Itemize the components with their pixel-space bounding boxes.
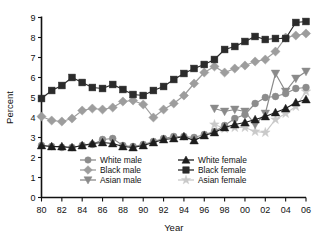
x-tick-label: 82 [57, 205, 67, 215]
data-point [58, 82, 65, 89]
data-point [291, 31, 300, 40]
data-point [57, 117, 66, 126]
data-point [303, 84, 310, 91]
x-tick-label: 04 [281, 205, 291, 215]
x-axis-title: Year [164, 222, 183, 233]
data-point [302, 68, 311, 76]
data-point [89, 84, 96, 91]
data-point [109, 81, 116, 88]
chart-figure: 01234567898082848688909294969800020406Ye… [0, 0, 317, 239]
data-point [98, 105, 107, 114]
data-point [292, 19, 299, 26]
data-point [251, 57, 260, 66]
data-point [108, 103, 117, 112]
data-point [262, 36, 269, 43]
legend-label: Asian female [198, 175, 247, 185]
legend-item[interactable]: White female [178, 155, 247, 165]
series-asian-male [210, 68, 310, 129]
data-point [242, 38, 249, 45]
data-point [230, 64, 239, 73]
data-point [140, 92, 147, 99]
data-point [301, 29, 310, 38]
data-point [272, 93, 279, 100]
data-point [191, 65, 198, 72]
x-tick-label: 94 [179, 205, 189, 215]
x-tick-label: 06 [301, 205, 311, 215]
x-tick-label: 90 [138, 205, 148, 215]
data-point [118, 97, 127, 106]
data-point [221, 46, 228, 53]
legend-item[interactable]: Black male [80, 165, 141, 175]
legend: White maleWhite femaleBlack maleBlack fe… [80, 155, 247, 185]
data-point [240, 61, 249, 70]
line-chart: 01234567898082848688909294969800020406Ye… [0, 0, 317, 239]
data-point [220, 68, 229, 77]
data-point [99, 85, 106, 92]
data-point [220, 108, 229, 116]
data-point [181, 70, 188, 77]
data-point [281, 104, 290, 112]
y-axis-title: Percent [4, 91, 15, 124]
data-point [37, 112, 46, 121]
data-point [272, 35, 279, 42]
data-point [181, 175, 190, 184]
y-tick-label: 6 [30, 73, 35, 83]
legend-label: Asian male [100, 175, 142, 185]
data-point [150, 87, 157, 94]
x-tick-label: 80 [36, 205, 46, 215]
data-point [119, 86, 126, 93]
data-point [262, 94, 269, 101]
y-tick-label: 3 [30, 133, 35, 143]
legend-label: Black male [100, 165, 141, 175]
x-axis-ticks: 8082848688909294969800020406 [36, 198, 311, 215]
y-tick-label: 1 [30, 173, 35, 183]
data-point [211, 56, 218, 63]
legend-label: Black female [198, 165, 246, 175]
y-tick-label: 5 [30, 93, 35, 103]
y-tick-label: 7 [30, 53, 35, 63]
data-point [303, 18, 310, 25]
data-point [69, 74, 76, 81]
x-tick-label: 00 [240, 205, 250, 215]
data-point [47, 116, 56, 125]
y-tick-label: 9 [30, 13, 35, 23]
data-point [48, 87, 55, 94]
data-point [170, 76, 177, 83]
x-tick-label: 96 [199, 205, 209, 215]
legend-label: White female [198, 155, 247, 165]
y-tick-label: 4 [30, 113, 35, 123]
data-point [84, 166, 93, 175]
data-point [282, 90, 289, 97]
data-point [252, 100, 259, 107]
y-tick-label: 0 [30, 193, 35, 203]
data-point [210, 62, 219, 71]
x-tick-label: 88 [118, 205, 128, 215]
x-tick-label: 02 [260, 205, 270, 215]
data-point [130, 91, 137, 98]
data-point [79, 79, 86, 86]
data-point [201, 61, 208, 68]
legend-item[interactable]: Asian female [178, 175, 247, 185]
legend-label: White male [100, 155, 142, 165]
data-point [252, 33, 259, 40]
data-point [271, 108, 280, 116]
data-point [38, 95, 45, 102]
y-tick-label: 2 [30, 153, 35, 163]
data-point [210, 119, 220, 128]
legend-item[interactable]: Asian male [80, 175, 142, 185]
data-point [282, 35, 289, 42]
legend-item[interactable]: Black female [178, 165, 246, 175]
x-tick-label: 86 [98, 205, 108, 215]
data-point [183, 167, 189, 173]
data-point [85, 157, 91, 163]
data-point [88, 104, 97, 113]
x-tick-label: 98 [220, 205, 230, 215]
data-point [271, 70, 280, 78]
y-tick-label: 8 [30, 33, 35, 43]
data-point [242, 111, 249, 118]
x-tick-label: 84 [77, 205, 87, 215]
x-tick-label: 92 [159, 205, 169, 215]
data-point [292, 85, 299, 92]
legend-item[interactable]: White male [80, 155, 142, 165]
data-point [231, 43, 238, 50]
